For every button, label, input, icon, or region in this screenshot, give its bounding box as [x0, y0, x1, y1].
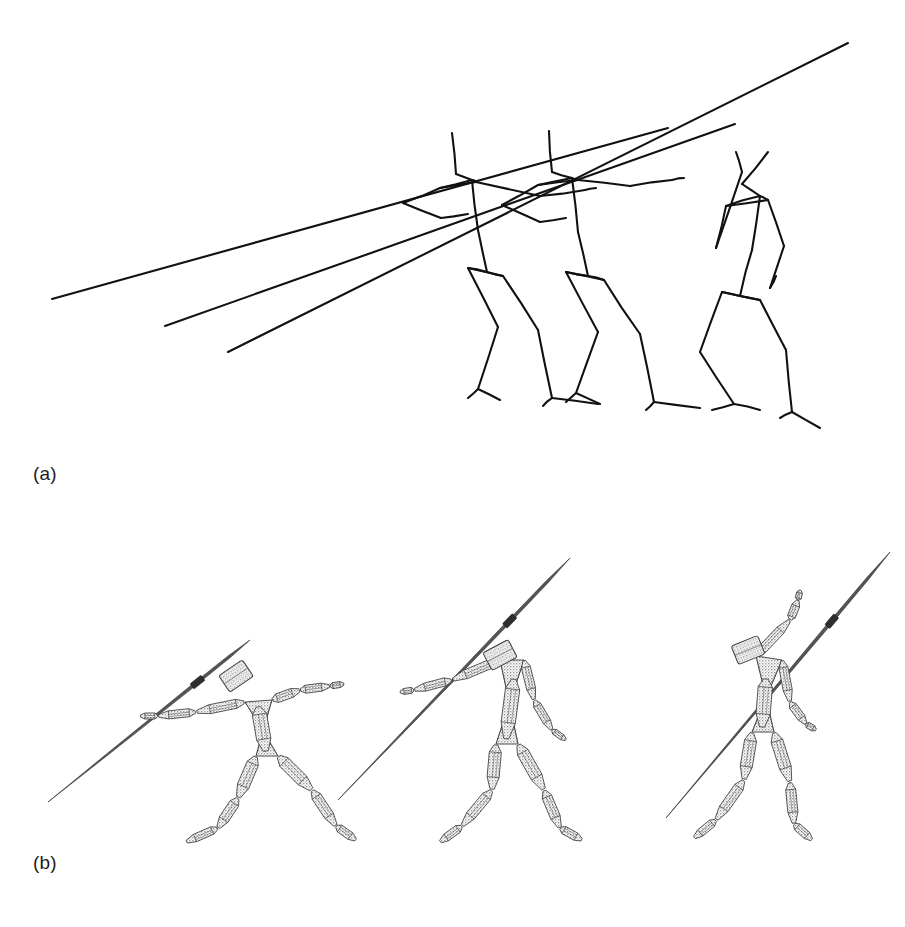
humanoid-model-1-foot-l-shell	[336, 825, 357, 841]
bone-ankle_l-heel_l	[646, 402, 654, 410]
bone-wrist_r-hand_r	[736, 152, 742, 172]
panel-b-drawing	[0, 500, 905, 927]
bone-ankle_l-toe_l	[792, 412, 820, 428]
humanoid-model-3-shin-r-shell	[715, 780, 745, 820]
humanoid-model-3-javelin-grip	[825, 614, 839, 629]
humanoid-model-3-hand-r	[795, 590, 802, 600]
bone-knee_r-ankle_r	[478, 327, 498, 389]
bone-hip_l-knee_l	[503, 276, 538, 330]
humanoid-model-2-shin-l-shell	[542, 790, 561, 828]
humanoid-model-group	[48, 552, 890, 843]
bone-knee_r-ankle_r	[576, 332, 598, 393]
humanoid-model-2-foot-r	[440, 825, 463, 843]
humanoid-model-1-hand-l	[330, 682, 344, 689]
humanoid-model-3-forearm-l-shell	[789, 702, 807, 725]
bone-knee_l-ankle_l	[640, 334, 654, 402]
skeleton-pose-2	[502, 131, 700, 410]
bone-ankle_r-heel_r	[468, 389, 478, 398]
bone-neck-spine_mid	[572, 178, 578, 232]
javelin-group-a	[52, 43, 848, 352]
humanoid-model-1-forearm-l-shell	[300, 683, 329, 693]
bone-hip_r-knee_r	[700, 292, 722, 352]
humanoid-model-1-javelin-shaft	[48, 640, 250, 802]
humanoid-model-2-abdomen	[501, 679, 520, 739]
humanoid-model-3-thigh-l	[771, 732, 792, 781]
humanoid-model-3-hand-l-shell	[806, 723, 817, 731]
humanoid-model-2-thigh-l-shell	[517, 744, 545, 790]
panel-label-a: (a)	[33, 463, 57, 485]
humanoid-model-1-thigh-l	[277, 755, 313, 791]
bone-ankle_l-toe_l	[654, 402, 700, 408]
bone-neck-spine_mid	[472, 180, 478, 230]
humanoid-model-2-thigh-r-shell	[487, 745, 501, 790]
humanoid-model-1-thigh-r-shell	[236, 756, 258, 798]
humanoid-model-1-foot-r	[186, 827, 218, 843]
bone-elbow_r-wrist_r	[716, 172, 742, 248]
humanoid-model-1-shin-r	[217, 798, 239, 829]
skeleton-group-a	[403, 131, 820, 428]
bone-elbow_l-wrist_l	[630, 180, 672, 186]
humanoid-model-2-shin-r-shell	[461, 790, 492, 827]
humanoid-model-1-hand-r	[140, 713, 157, 719]
bone-neck-spine_mid	[752, 196, 760, 250]
bone-head_base-neck	[552, 172, 572, 178]
humanoid-model-3-foot-r	[694, 819, 717, 838]
bone-hip_l-knee_l	[760, 300, 786, 350]
bone-shoulder_l-elbow_l	[768, 200, 784, 246]
humanoid-model-2-hand-l	[552, 729, 567, 740]
humanoid-model-2-shin-r	[461, 790, 492, 827]
bone-wrist_r-hand_r	[540, 218, 566, 222]
humanoid-model-2-forearm-l	[533, 700, 553, 730]
bone-wrist_r-hand_r	[441, 214, 468, 218]
humanoid-model-1-shin-l-shell	[311, 790, 337, 827]
bone-head_top-head_base	[742, 152, 768, 184]
humanoid-model-1	[48, 640, 356, 843]
humanoid-model-2-upperarm-l	[521, 661, 535, 700]
humanoid-model-3-forearm-l	[789, 702, 807, 725]
humanoid-model-1-foot-l	[336, 825, 357, 841]
bone-wrist_l-hand_l	[585, 188, 596, 190]
panel-a-drawing	[0, 0, 905, 500]
bone-ankle_r-heel_r	[712, 404, 734, 410]
humanoid-model-1-upperarm-l	[272, 689, 300, 703]
humanoid-model-2-thigh-l	[517, 744, 545, 790]
humanoid-model-3-thigh-r-shell	[740, 733, 756, 780]
bone-ankle_l-heel_l	[780, 412, 792, 418]
bone-spine_mid-pelvis	[740, 250, 752, 296]
bone-hip_l-knee_l	[604, 280, 640, 334]
bone-knee_r-ankle_r	[700, 352, 734, 404]
bone-ankle_l-heel_l	[543, 398, 552, 406]
humanoid-model-3-foot-r-shell	[694, 819, 717, 838]
bone-ankle_r-toe_r	[734, 404, 760, 410]
humanoid-model-2-hand-l-shell	[552, 729, 567, 740]
figure-root: (a) (b)	[0, 0, 905, 927]
humanoid-model-3-forearm-r	[788, 600, 800, 620]
humanoid-model-3-shin-r	[715, 780, 745, 820]
humanoid-model-1-forearm-l	[300, 683, 329, 693]
humanoid-model-2-javelin-grip	[503, 614, 517, 629]
bone-head_top-head_base	[452, 133, 456, 174]
bone-elbow_r-wrist_r	[403, 203, 441, 218]
humanoid-model-3-shin-l-shell	[786, 783, 798, 824]
humanoid-model-1-thigh-l-shell	[277, 755, 313, 791]
humanoid-model-1-shin-r-shell	[217, 798, 239, 829]
humanoid-model-3-hand-l	[806, 723, 817, 731]
panel-label-b: (b)	[33, 852, 57, 874]
bone-head_base-neck	[742, 184, 760, 196]
skeleton-pose-3	[700, 152, 820, 428]
humanoid-model-2-foot-l	[560, 827, 582, 841]
humanoid-model-1-upperarm-r	[197, 699, 245, 713]
humanoid-model-2	[338, 558, 582, 843]
humanoid-model-2-thigh-r	[487, 745, 501, 790]
bone-head_top-head_base	[549, 131, 552, 172]
humanoid-model-3-thigh-r	[740, 733, 756, 780]
bone-spine_mid-pelvis	[478, 230, 487, 272]
bone-knee_l-ankle_l	[538, 330, 552, 398]
humanoid-model-1-foot-r-shell	[186, 827, 218, 843]
humanoid-model-1-shin-l	[311, 790, 337, 827]
humanoid-model-3	[666, 552, 890, 841]
humanoid-model-3-shin-l	[786, 783, 798, 824]
humanoid-model-1-thigh-r	[236, 756, 258, 798]
humanoid-model-3-foot-l	[794, 823, 813, 840]
humanoid-model-3-upperarm-l	[779, 661, 792, 702]
